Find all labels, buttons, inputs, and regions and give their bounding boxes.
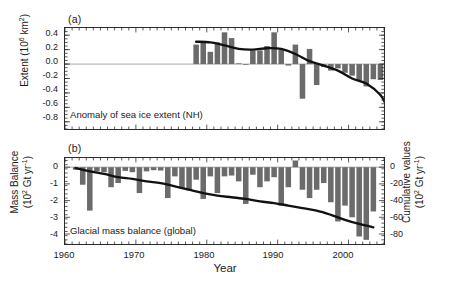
panel-b-y-title-sup: 2 [20, 190, 27, 194]
figure-root: (a) Extent (106 km2) 0.4 0.2 0.0 -0.2 -0… [0, 0, 449, 291]
panel-b-right-axis-title: Cumulative values (102 Gt yr-1) [401, 117, 425, 247]
panel-b-y-title-line2c: ) [22, 156, 33, 159]
y-axis-title-close: ) [19, 14, 30, 17]
panel-a-caption: Anomaly of sea ice extent (NH) [70, 109, 203, 120]
panel-b-right-ytick-2: -40 [390, 195, 403, 205]
xtick-1960: 1960 [44, 249, 84, 260]
panel-b-ytick-2: -2 [24, 195, 58, 205]
panel-b-right-title-sup: 2 [412, 190, 419, 194]
panel-a-label: (a) [68, 13, 81, 25]
panel-b-caption: Glacial mass balance (global) [70, 225, 196, 236]
panel-b-right-title-line2c: ) [414, 156, 425, 159]
panel-b-ytick-4: -4 [24, 229, 58, 239]
panel-a-ytick-5: -0.6 [20, 98, 58, 108]
panel-a-ytick-1: 0.2 [20, 42, 58, 52]
panel-a-ytick-2: 0.0 [20, 56, 58, 66]
xtick-1990: 1990 [253, 249, 293, 260]
panel-a-ytick-3: -0.2 [20, 70, 58, 80]
panel-b-right-ytick-1: -20 [390, 178, 403, 188]
panel-a-ytick-0: 0.4 [20, 28, 58, 38]
panel-b-label: (b) [68, 142, 81, 154]
xtick-1970: 1970 [114, 249, 154, 260]
panel-b-right-title-line2a: (10 [414, 194, 425, 208]
y-axis-title-sup2: 2 [18, 17, 25, 21]
xtick-1980: 1980 [184, 249, 224, 260]
panel-b-right-title-line2b: Gt yr [414, 166, 425, 190]
panel-a-ytick-4: -0.4 [20, 84, 58, 94]
panel-b-ytick-3: -3 [24, 212, 58, 222]
panel-b-right-title-sup2: -1 [412, 159, 419, 165]
panel-b-y-title-line1: Mass Balance [9, 151, 20, 214]
x-axis-title: Year [170, 262, 280, 275]
panel-b-right-ytick-3: -60 [390, 212, 403, 222]
panel-b-ytick-0: 0 [24, 161, 58, 171]
panel-b-right-ytick-4: -80 [390, 229, 403, 239]
xtick-2000: 2000 [323, 249, 363, 260]
panel-b-ytick-1: -1 [24, 178, 58, 188]
panel-b-right-ytick-0: 0 [390, 161, 395, 171]
